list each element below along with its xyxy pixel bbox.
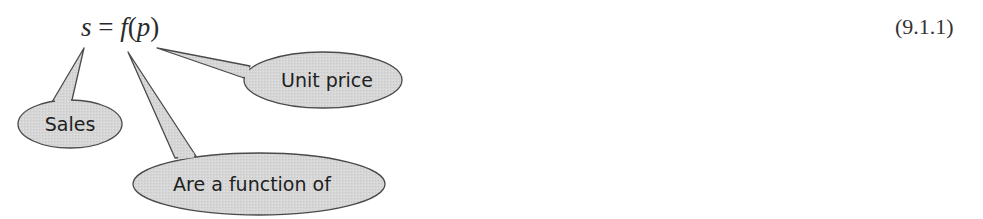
annotated-equation-figure: Sales Unit price Are a function of s = f… — [0, 0, 983, 219]
equation-argument: p — [137, 12, 151, 42]
callout-unit-price-label: Unit price — [281, 69, 373, 91]
callout-sales: Sales — [18, 48, 122, 148]
equation-function: f — [120, 12, 128, 42]
callout-function-of-label: Are a function of — [173, 173, 332, 195]
equation-number: (9.1.1) — [895, 14, 954, 40]
equation-close-paren: ) — [150, 12, 159, 42]
equation-equals: = — [98, 12, 113, 42]
callout-unit-price: Unit price — [157, 48, 402, 108]
equation-lhs: s — [81, 12, 92, 42]
equation-open-paren: ( — [128, 12, 137, 42]
callout-sales-label: Sales — [45, 113, 96, 135]
equation: s = f(p) — [81, 12, 159, 43]
